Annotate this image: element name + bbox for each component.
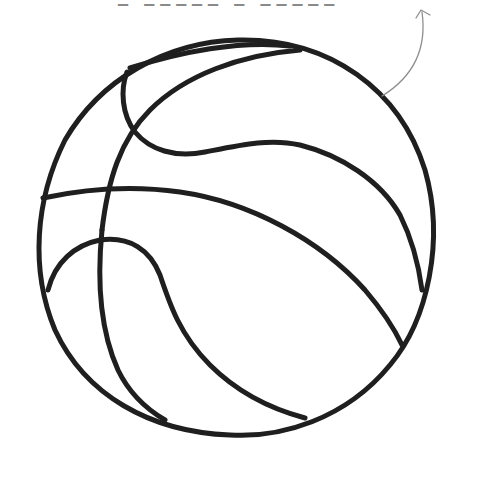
basketball-illustration: [0, 0, 484, 483]
ball-outline: [39, 40, 433, 435]
seam-upper-hook: [123, 72, 422, 290]
seam-horizontal-middle: [43, 189, 402, 345]
annotation-arrow-line: [382, 12, 423, 96]
seam-lower-arc: [48, 239, 305, 418]
seam-vertical-left: [100, 230, 165, 420]
